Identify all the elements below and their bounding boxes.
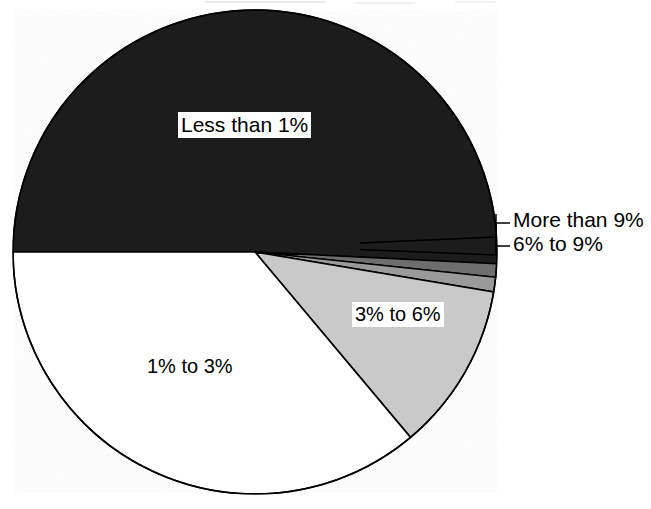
pie-label-6-to-9: 6% to 9% <box>513 232 603 256</box>
pie-label-3-to-6: 3% to 6% <box>352 302 444 327</box>
pie-label-1-to-3: 1% to 3% <box>147 355 233 378</box>
pie-label-less-than-1: Less than 1% <box>178 112 311 138</box>
pie-chart: Less than 1% 3% to 6% 1% to 3% More than… <box>0 0 651 509</box>
pie-label-more-than-9: More than 9% <box>513 208 644 232</box>
scan-artifact <box>205 1 325 3</box>
scan-artifact <box>355 2 415 4</box>
scan-artifact <box>455 1 495 3</box>
